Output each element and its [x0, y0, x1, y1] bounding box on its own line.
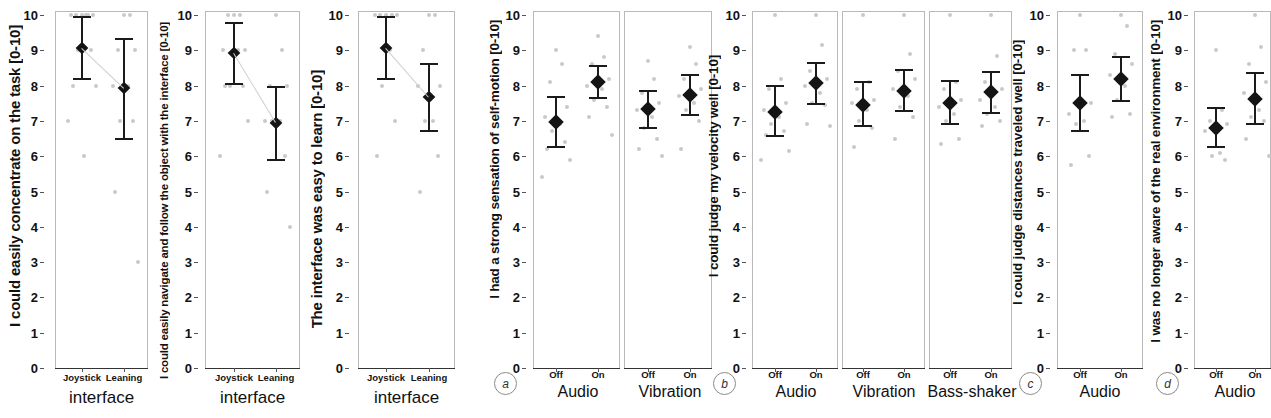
error-bar-cap — [854, 125, 872, 127]
error-bar-cap — [115, 38, 133, 40]
y-axis-tick-label: 6 — [498, 149, 520, 164]
y-axis-tick — [1046, 333, 1050, 334]
raw-data-point — [697, 119, 701, 123]
y-axis-tick — [742, 297, 746, 298]
plot-area-pd-0 — [1194, 11, 1271, 368]
raw-data-point — [1247, 62, 1251, 66]
y-axis-tick-label: 7 — [321, 113, 343, 128]
raw-data-point — [902, 13, 906, 17]
x-axis-title: interface — [69, 388, 134, 408]
raw-data-point — [283, 154, 287, 158]
error-bar-cap — [1071, 74, 1089, 76]
error-bar-cap — [267, 86, 285, 88]
raw-data-point — [375, 154, 379, 158]
x-axis-tick — [690, 368, 691, 372]
error-bar-cap — [766, 85, 784, 87]
y-axis-tick — [1184, 121, 1188, 122]
raw-data-point — [238, 13, 242, 17]
raw-data-point — [983, 80, 987, 84]
raw-data-point — [605, 105, 609, 109]
error-bar-cap — [1207, 107, 1225, 109]
error-bar-cap — [982, 71, 1000, 73]
raw-data-point — [787, 149, 791, 153]
raw-data-point — [1123, 84, 1127, 88]
y-axis-tick — [194, 15, 198, 16]
raw-data-point — [978, 98, 982, 102]
y-axis-tick-label: 1 — [1160, 325, 1182, 340]
y-axis-tick-label: 5 — [321, 184, 343, 199]
y-axis-tick — [40, 333, 44, 334]
error-bar-cap — [807, 103, 825, 105]
x-axis-baseline — [752, 368, 838, 369]
raw-data-point — [89, 48, 93, 52]
y-axis-tick-label: 5 — [16, 184, 38, 199]
y-axis-tick-label: 4 — [718, 219, 740, 234]
x-axis-baseline — [842, 368, 925, 369]
error-bar-cap — [681, 74, 699, 76]
y-axis-tick — [522, 368, 526, 369]
raw-data-point — [554, 48, 558, 52]
raw-data-point — [288, 225, 292, 229]
y-axis-tick — [1046, 262, 1050, 263]
raw-data-point — [805, 122, 809, 126]
x-axis-baseline — [55, 368, 148, 369]
y-axis-tick — [1046, 15, 1050, 16]
y-axis-tick — [1046, 227, 1050, 228]
y-axis-tick — [40, 86, 44, 87]
raw-data-point — [1267, 154, 1271, 158]
y-axis-tick — [345, 121, 349, 122]
raw-data-point — [540, 175, 544, 179]
error-bar-cap — [639, 90, 657, 92]
y-axis-tick-label: 3 — [1022, 255, 1044, 270]
raw-data-point — [1249, 115, 1253, 119]
y-axis-label: I could easily concentrate on the task [… — [6, 25, 23, 327]
error-bar-cap — [1246, 123, 1264, 125]
raw-data-point — [913, 77, 917, 81]
raw-data-point — [563, 140, 567, 144]
error-bar-cap — [73, 16, 91, 18]
y-axis-tick — [40, 262, 44, 263]
y-axis-tick — [742, 192, 746, 193]
y-axis-tick — [1184, 262, 1188, 263]
raw-data-point — [655, 137, 659, 141]
raw-data-point — [762, 108, 766, 112]
y-axis-tick — [194, 192, 198, 193]
raw-data-point — [828, 124, 832, 128]
raw-data-point — [1000, 87, 1004, 91]
y-axis-tick — [742, 15, 746, 16]
x-axis-tick — [429, 368, 430, 372]
y-axis-tick-label: 9 — [321, 43, 343, 58]
y-axis-tick-label: 3 — [718, 255, 740, 270]
raw-data-point — [688, 45, 692, 49]
error-bar-cap — [115, 138, 133, 140]
x-axis-baseline — [205, 368, 300, 369]
x-group-label: Bass-shaker — [928, 383, 1017, 401]
x-axis-baseline — [358, 368, 455, 369]
y-axis-tick-label: 1 — [170, 325, 192, 340]
raw-data-point — [998, 119, 1002, 123]
error-bar-cap — [589, 97, 607, 99]
raw-data-point — [436, 154, 440, 158]
raw-data-point — [1130, 62, 1134, 66]
x-axis-tick — [386, 368, 387, 372]
y-axis-tick — [40, 227, 44, 228]
panel-letter-a: a — [494, 372, 517, 395]
y-axis-tick-label: 10 — [718, 8, 740, 23]
raw-data-point — [243, 48, 247, 52]
raw-data-point — [1225, 122, 1229, 126]
error-bar-cap — [895, 110, 913, 112]
raw-data-point — [857, 119, 861, 123]
x-group-label: Vibration — [639, 383, 702, 401]
y-axis-tick-label: 2 — [498, 290, 520, 305]
raw-data-point — [1214, 48, 1218, 52]
raw-data-point — [133, 48, 137, 52]
y-axis-tick-label: 8 — [16, 78, 38, 93]
raw-data-point — [94, 84, 98, 88]
x-group-label: Audio — [558, 383, 599, 401]
y-axis-tick — [742, 262, 746, 263]
y-axis-tick — [742, 121, 746, 122]
raw-data-point — [1218, 151, 1222, 155]
x-axis-tick — [1080, 368, 1081, 372]
raw-data-point — [898, 105, 902, 109]
error-bar-cap — [941, 123, 959, 125]
